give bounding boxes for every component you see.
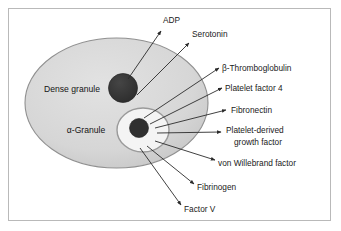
label-platelet-factor-4: Platelet factor 4 — [225, 83, 283, 93]
label-beta-thromboglobulin: β-Thromboglobulin — [222, 63, 292, 73]
label-platelet-derived-growth-factor: Platelet-derived — [226, 125, 284, 135]
label-fibrinogen: Fibrinogen — [197, 182, 237, 192]
dense-granule-shape — [109, 74, 138, 103]
alpha-granule-core — [130, 119, 149, 138]
alpha-granule-label: α-Granule — [67, 125, 106, 135]
dense-granule-label: Dense granule — [44, 84, 100, 94]
label-platelet-derived-growth-factor-line2: growth factor — [234, 137, 282, 147]
label-von-willebrand-factor: von Willebrand factor — [218, 158, 296, 168]
label-adp: ADP — [163, 15, 181, 25]
label-factor-v: Factor V — [184, 204, 216, 214]
label-serotonin: Serotonin — [192, 29, 228, 39]
platelet-diagram: Dense granule α-Granule ADP Serotonin β-… — [0, 0, 341, 231]
platelet-body — [25, 38, 208, 168]
label-fibronectin: Fibronectin — [231, 105, 272, 115]
figure-container: Dense granule α-Granule ADP Serotonin β-… — [0, 0, 341, 231]
